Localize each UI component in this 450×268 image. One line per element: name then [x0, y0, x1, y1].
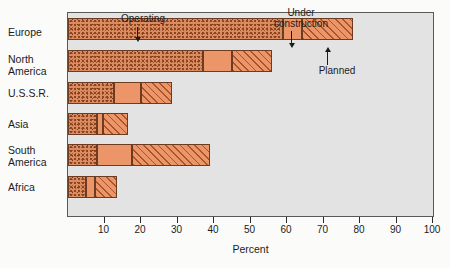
annotation-operating: Operating — [108, 14, 178, 25]
planned-segment — [95, 176, 117, 198]
chart-figure: Europe North America U.S.S.R. Asia South… — [0, 0, 450, 268]
annotation-under-construction: Under construction — [258, 8, 344, 29]
planned-segment — [132, 144, 210, 166]
construction-segment — [203, 50, 232, 72]
y-label-europe: Europe — [8, 27, 66, 39]
x-tick-label: 50 — [244, 224, 255, 235]
annotation-planned-arrow-head — [325, 47, 331, 52]
x-tick — [323, 217, 324, 223]
y-label-ussr: U.S.S.R. — [8, 88, 66, 100]
x-tick-label: 80 — [353, 224, 364, 235]
planned-segment — [141, 82, 172, 104]
x-tick — [177, 217, 178, 223]
operating-segment — [68, 176, 86, 198]
planned-segment — [103, 113, 129, 135]
construction-segment — [97, 144, 132, 166]
x-tick — [359, 217, 360, 223]
y-label-north-america: North America — [8, 54, 66, 77]
x-tick — [140, 217, 141, 223]
x-tick — [286, 217, 287, 223]
construction-segment — [86, 176, 95, 198]
x-axis-title: Percent — [67, 243, 434, 255]
bar-row — [68, 82, 433, 104]
x-tick-label: 100 — [424, 224, 441, 235]
y-label-africa: Africa — [8, 182, 66, 194]
bar-row — [68, 176, 433, 198]
bar-row — [68, 50, 433, 72]
x-tick-label: 70 — [317, 224, 328, 235]
bar-row — [68, 113, 433, 135]
x-tick-label: 60 — [280, 224, 291, 235]
x-tick — [250, 217, 251, 223]
annotation-planned: Planned — [307, 66, 367, 77]
y-label-asia: Asia — [8, 119, 66, 131]
x-tick — [396, 217, 397, 223]
annotation-planned-arrow-line — [327, 52, 328, 65]
bar-row — [68, 144, 433, 166]
annotation-operating-arrow-head — [135, 37, 141, 42]
planned-segment — [232, 50, 272, 72]
y-label-south-america: South America — [8, 145, 66, 168]
operating-segment — [68, 113, 97, 135]
x-tick-label: 10 — [98, 224, 109, 235]
bar-group — [68, 13, 433, 216]
x-tick-label: 30 — [171, 224, 182, 235]
x-tick-label: 90 — [390, 224, 401, 235]
x-tick — [432, 217, 433, 223]
x-tick-label: 20 — [134, 224, 145, 235]
operating-segment — [68, 82, 114, 104]
y-axis-labels: Europe North America U.S.S.R. Asia South… — [8, 12, 64, 217]
x-tick — [213, 217, 214, 223]
annotation-construction-arrow-head — [289, 43, 295, 48]
x-tick — [104, 217, 105, 223]
construction-segment — [114, 82, 141, 104]
operating-segment — [68, 50, 203, 72]
operating-segment — [68, 144, 97, 166]
x-tick-label: 40 — [207, 224, 218, 235]
